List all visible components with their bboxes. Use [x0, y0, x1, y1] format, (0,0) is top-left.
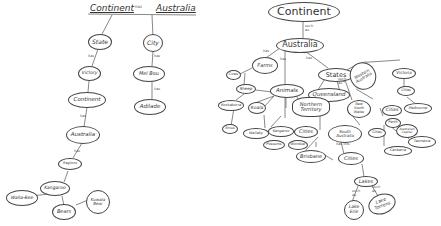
- node-city: City: [143, 34, 163, 52]
- link-label-has-4: has: [80, 115, 86, 119]
- link-label-continent-australia: such as: [305, 25, 313, 32]
- node-cities-nt: Cities: [294, 126, 318, 138]
- link-label-has-1: has: [88, 55, 94, 59]
- node-south-australia: South Australia: [328, 125, 362, 143]
- node-brisbane: Brisbane: [296, 150, 326, 163]
- link-label-has-2: has: [154, 55, 160, 59]
- node-melbourne-r: Melbourne: [404, 103, 432, 114]
- node-victoria: Victoria: [392, 68, 416, 79]
- node-regions: Regions: [58, 158, 82, 170]
- link-label-such-as-2: such as: [372, 186, 380, 193]
- node-cities-nsw: Cities: [368, 128, 386, 138]
- link-label-australia-states: has: [306, 57, 312, 61]
- node-emus: Emus: [222, 124, 238, 134]
- node-lake-erie: Lake Erie: [344, 200, 364, 220]
- node-kangaroo: Kangaroo: [40, 181, 70, 196]
- node-cities-vic: Cities: [397, 86, 415, 96]
- node-northern-territory: Northern Territory: [292, 97, 330, 117]
- node-wallaby-r: Wallaby: [243, 128, 269, 139]
- left-title-link: has: [135, 5, 142, 9]
- left-title-australia: Australia: [156, 3, 196, 13]
- node-cows: Cows: [226, 70, 241, 80]
- node-continent-root: Continent: [268, 2, 340, 22]
- node-tasmania: Tasmania: [408, 136, 436, 148]
- node-kangaroo-r: Kangaroo: [268, 126, 294, 137]
- link-label-australia-farms: has: [263, 50, 269, 54]
- link-label-has-lots: has lots: [336, 143, 350, 147]
- node-koala: Koala: [248, 102, 266, 114]
- node-possums: Possums: [263, 140, 285, 150]
- node-adelaide: Adilade: [134, 99, 166, 115]
- node-farms: Farms: [252, 57, 278, 74]
- node-australia: Australia: [66, 126, 100, 144]
- link-label-has-3: has: [154, 88, 160, 92]
- node-kookaburra: Kookaburra: [218, 100, 244, 111]
- node-wombat: Wombat: [288, 140, 308, 150]
- link-label-such-as-1: such as: [352, 190, 360, 197]
- node-victory: Victory: [78, 66, 101, 81]
- node-canberra: Canberra: [384, 146, 412, 156]
- left-title-continent: Continent: [90, 3, 134, 13]
- node-koala-bear: Kuwala Bear: [86, 190, 110, 214]
- node-cities-sa: Cities: [338, 152, 364, 165]
- node-wallaby: Walla-Bee: [6, 190, 38, 206]
- node-cities-wa: Cities: [382, 105, 402, 116]
- node-continent: Continent: [68, 92, 106, 108]
- link-label-has-5: has: [74, 150, 80, 154]
- node-animals: Animals: [270, 84, 304, 98]
- link-label-australia-animals: has: [280, 58, 286, 62]
- link-label-states-wa: such as: [338, 78, 346, 85]
- node-australia-hub: Australia: [276, 38, 324, 53]
- node-new-south-wales: New South Wales: [347, 100, 371, 118]
- node-sheep: Sheep: [236, 84, 256, 94]
- node-bears: Bears: [52, 204, 76, 220]
- node-melbourne: Mel Bou: [133, 66, 165, 82]
- node-state: State: [88, 34, 112, 50]
